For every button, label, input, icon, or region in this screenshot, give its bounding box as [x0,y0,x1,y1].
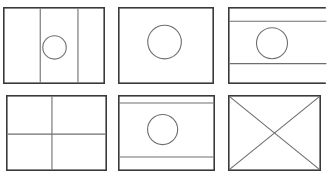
flag-cell-vertical-triband-with-disc [3,7,105,84]
flag-field-border [119,96,214,170]
flag-field-border [7,96,106,170]
flag-field-border [229,8,327,83]
flag-cell-horizontal-triband-with-disc-cropped [228,7,328,84]
flag-drawing-quartered-cross-division [6,95,107,171]
flag-drawing-horizontal-triband-with-disc [118,95,215,171]
flag-cell-plain-field-with-disc [118,7,214,84]
flag-drawing-horizontal-triband-with-disc-cropped [228,7,328,84]
flag-field-border [119,8,213,83]
flag-cell-saltire-diagonal-cross [228,95,321,171]
flag-drawing-plain-field-with-disc [118,7,214,84]
flag-drawing-saltire-diagonal-cross [228,95,321,171]
flag-field-border [4,8,104,83]
flag-drawing-vertical-triband-with-disc [3,7,105,84]
flag-cell-quartered-cross-division [6,95,107,171]
flag-cell-horizontal-triband-with-disc [118,95,215,171]
